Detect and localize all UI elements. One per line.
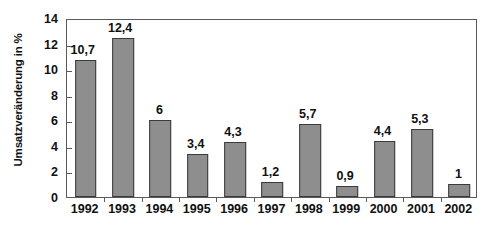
x-axis-tick-label: 1997 [258, 202, 286, 216]
x-axis-tick-label: 1994 [146, 202, 174, 216]
bar-value-label: 12,4 [108, 21, 132, 35]
bar[interactable] [150, 120, 172, 197]
y-axis-title: Umsatzveränderung in % [0, 0, 34, 200]
bar[interactable] [448, 184, 470, 197]
y-axis-tick-label: 10 [44, 63, 58, 77]
bar-slot: 6 [142, 20, 179, 197]
bar-slot: 0,9 [329, 20, 366, 197]
bar-value-label: 0,9 [336, 169, 353, 183]
bar-slot: 1,2 [254, 20, 291, 197]
bar-value-label: 4,4 [374, 124, 391, 138]
x-axis-tick-label: 1999 [332, 202, 360, 216]
bar[interactable] [112, 38, 134, 197]
bar-value-label: 10,7 [71, 43, 95, 57]
y-axis-tick-label: 4 [51, 140, 58, 154]
bar[interactable] [336, 186, 358, 198]
bar-slot: 12,4 [104, 20, 141, 197]
x-axis-tick-label: 1993 [108, 202, 136, 216]
y-axis-tick-label: 0 [51, 191, 58, 205]
bar[interactable] [411, 129, 433, 197]
y-axis-tick-label: 2 [51, 165, 58, 179]
bar-value-label: 3,4 [187, 137, 204, 151]
bar[interactable] [187, 154, 209, 197]
x-axis-tick-label: 1996 [220, 202, 248, 216]
bar-slot: 3,4 [179, 20, 216, 197]
bar-slot: 4,4 [366, 20, 403, 197]
bar-slot: 4,3 [216, 20, 253, 197]
bar-value-label: 5,7 [299, 107, 316, 121]
y-axis-tick-label: 8 [51, 89, 58, 103]
x-axis-tick-label: 1998 [295, 202, 323, 216]
x-axis-tick-label: 2002 [444, 202, 472, 216]
x-axis-tick-label: 2000 [370, 202, 398, 216]
plot-area: 10,712,463,44,31,25,70,94,45,31 [66, 19, 477, 198]
x-axis-tick-label: 2001 [407, 202, 435, 216]
bar-value-label: 1 [455, 167, 462, 181]
bar-value-label: 6 [156, 103, 163, 117]
y-axis-tick-labels: 02468101214 [34, 19, 62, 198]
bar[interactable] [374, 141, 396, 197]
y-axis-tick-label: 12 [44, 38, 58, 52]
y-axis-title-text: Umsatzveränderung in % [11, 34, 23, 167]
bar[interactable] [262, 182, 284, 197]
bar-chart-figure: Umsatzveränderung in % 02468101214 10,71… [0, 0, 497, 235]
bar-slot: 5,3 [403, 20, 440, 197]
bar-value-label: 4,3 [224, 125, 241, 139]
bar-value-label: 5,3 [411, 112, 428, 126]
bar-slot: 10,7 [67, 20, 104, 197]
y-axis-tick-label: 14 [44, 12, 58, 26]
bar[interactable] [299, 124, 321, 197]
bar[interactable] [75, 60, 97, 197]
x-axis-tick-label: 1992 [71, 202, 99, 216]
bar-slot: 5,7 [291, 20, 328, 197]
y-axis-tick-label: 6 [51, 114, 58, 128]
bar[interactable] [224, 142, 246, 197]
x-axis-tick-labels: 1992199319941995199619971998199920002001… [66, 202, 477, 226]
bar-value-label: 1,2 [262, 165, 279, 179]
bar-slot: 1 [441, 20, 478, 197]
x-axis-tick-label: 1995 [183, 202, 211, 216]
